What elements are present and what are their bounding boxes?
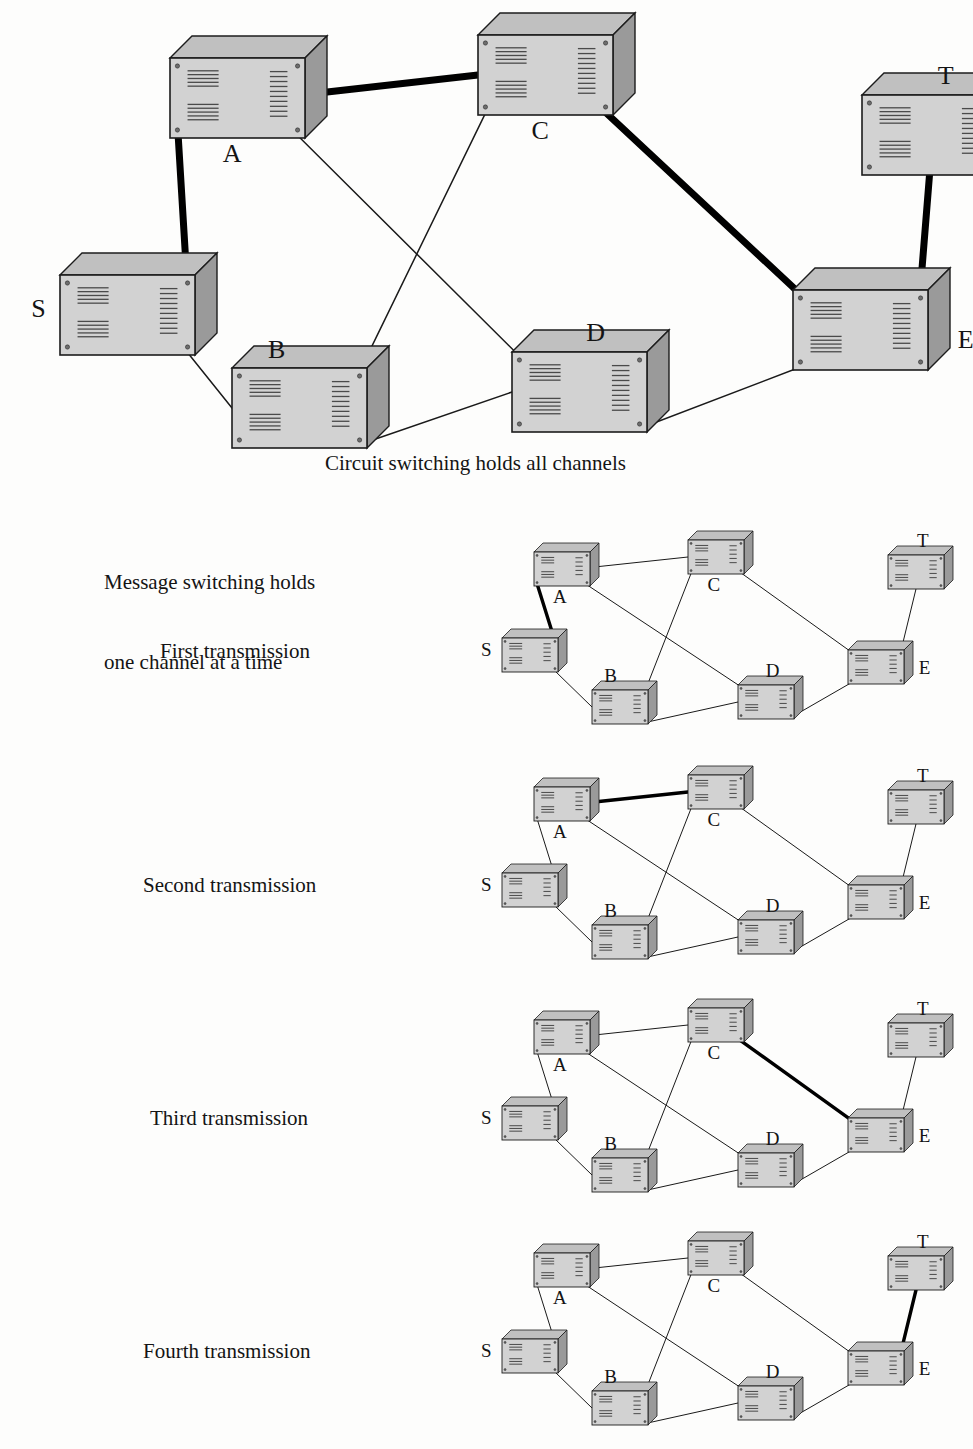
node-screw	[940, 557, 942, 559]
node-top-face	[848, 641, 913, 650]
node-screw	[740, 1183, 742, 1185]
node-c	[478, 13, 635, 115]
node-label-c: C	[707, 809, 720, 830]
node-screw	[504, 1136, 506, 1138]
node-label-e: E	[919, 892, 931, 913]
node-screw	[690, 805, 692, 807]
node-top-face	[592, 1149, 657, 1158]
node-label-d: D	[766, 895, 780, 916]
node-b	[592, 916, 657, 959]
node-screw	[850, 652, 852, 654]
fourth-transmission-network: SABCDET	[492, 1231, 962, 1449]
node-screw	[890, 792, 892, 794]
node-screw	[740, 1010, 742, 1012]
node-top-face	[534, 1011, 599, 1020]
node-screw	[740, 1243, 742, 1245]
node-screw	[900, 680, 902, 682]
node-screw	[637, 358, 641, 362]
node-label-b: B	[604, 1133, 617, 1154]
node-screw	[536, 582, 538, 584]
link-b-d	[645, 937, 738, 958]
node-screw	[644, 1421, 646, 1423]
node-screw	[850, 1353, 852, 1355]
link-c-e-active	[741, 1041, 852, 1120]
node-label-s: S	[481, 1107, 492, 1128]
node-c	[688, 999, 753, 1042]
nodes-layer	[502, 1232, 953, 1425]
label-third-transmission: Third transmission	[150, 1105, 308, 1132]
node-label-e: E	[919, 1358, 931, 1379]
node-screw	[940, 1258, 942, 1260]
node-screw	[594, 720, 596, 722]
node-label-d: D	[766, 1361, 780, 1382]
node-screw	[940, 1025, 942, 1027]
node-screw	[644, 1393, 646, 1395]
node-screw	[644, 927, 646, 929]
node-screw	[554, 668, 556, 670]
link-c-e	[741, 1274, 852, 1353]
node-top-face	[688, 766, 753, 775]
link-b-c	[645, 1041, 692, 1160]
link-a-c	[592, 1025, 688, 1035]
node-t	[888, 1247, 953, 1290]
node-screw	[644, 692, 646, 694]
node-screw	[740, 687, 742, 689]
first-transmission-network: SABCDET	[492, 530, 962, 745]
node-screw	[690, 777, 692, 779]
node-screw	[890, 1258, 892, 1260]
node-screw	[867, 165, 871, 169]
node-screw	[900, 652, 902, 654]
node-label-d: D	[766, 660, 780, 681]
node-screw	[536, 1283, 538, 1285]
node-screw	[504, 875, 506, 877]
node-screw	[900, 915, 902, 917]
node-screw	[185, 281, 189, 285]
node-screw	[295, 64, 299, 68]
node-screw	[740, 1271, 742, 1273]
node-top-face	[502, 629, 567, 638]
node-label-d: D	[766, 1128, 780, 1149]
node-screw	[900, 1148, 902, 1150]
node-screw	[586, 817, 588, 819]
node-label-s: S	[481, 639, 492, 660]
node-top-face	[478, 13, 635, 35]
node-c	[688, 1232, 753, 1275]
node-screw	[790, 1388, 792, 1390]
node-label-a: A	[553, 1287, 567, 1308]
node-screw	[237, 438, 241, 442]
node-screw	[740, 805, 742, 807]
node-label-b: B	[604, 665, 617, 686]
node-screw	[594, 1188, 596, 1190]
node-label-b: B	[604, 900, 617, 921]
node-label-c: C	[707, 1275, 720, 1296]
node-screw	[918, 296, 922, 300]
node-screw	[536, 817, 538, 819]
link-s-b	[555, 671, 592, 707]
node-top-face	[862, 73, 973, 95]
caption-circuit-switching: Circuit switching holds all channels	[325, 450, 626, 477]
diagram-page: SABCDET Circuit switching holds all chan…	[0, 0, 973, 1449]
node-label-e: E	[958, 325, 973, 354]
node-screw	[586, 1283, 588, 1285]
node-front-face	[232, 368, 367, 448]
node-t	[888, 781, 953, 824]
node-t	[888, 546, 953, 589]
node-screw	[940, 1053, 942, 1055]
node-screw	[850, 1120, 852, 1122]
node-screw	[790, 715, 792, 717]
node-screw	[357, 438, 361, 442]
node-screw	[790, 687, 792, 689]
node-e	[793, 268, 950, 370]
link-s-b	[187, 352, 232, 408]
node-label-b: B	[268, 335, 285, 364]
node-label-c: C	[531, 116, 548, 145]
link-a-c-active	[592, 792, 688, 802]
node-s	[60, 253, 217, 355]
node-top-face	[848, 1342, 913, 1351]
node-screw	[175, 64, 179, 68]
node-top-face	[502, 1330, 567, 1339]
node-screw	[594, 927, 596, 929]
node-label-t: T	[917, 530, 929, 551]
label-first-transmission: First transmission	[160, 638, 310, 665]
node-screw	[790, 1183, 792, 1185]
